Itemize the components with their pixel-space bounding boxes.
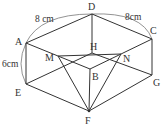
vertex-label-d: D xyxy=(88,1,95,12)
edge-bf xyxy=(89,69,90,111)
dimension-label-ad: 8 cm xyxy=(35,14,54,24)
edge-ef xyxy=(26,84,89,111)
dimension-label-ae: 6cm xyxy=(2,59,19,69)
vertex-label-g: G xyxy=(153,77,160,88)
edge-nf xyxy=(89,54,121,111)
vertex-label-m: M xyxy=(45,52,54,63)
vertex-label-c: C xyxy=(150,25,157,36)
diagram-canvas: 8 cm 8cm 6cm A B C D E F G H M N xyxy=(0,0,165,130)
dimension-label-dc: 8cm xyxy=(125,12,142,22)
dimension-arc-ae xyxy=(21,43,26,84)
vertex-label-a: A xyxy=(15,36,23,47)
vertex-label-n: N xyxy=(123,53,130,64)
vertex-label-b: B xyxy=(92,71,99,82)
vertex-label-h: H xyxy=(90,41,97,52)
cuboid-diagram: 8 cm 8cm 6cm A B C D E F G H M N xyxy=(0,0,165,130)
edge-dc xyxy=(92,14,152,39)
vertex-label-f: F xyxy=(85,115,91,126)
vertex-label-e: E xyxy=(15,87,21,98)
edges xyxy=(26,14,152,112)
vertex-dot-f xyxy=(88,110,91,113)
edge-mf xyxy=(58,56,89,111)
